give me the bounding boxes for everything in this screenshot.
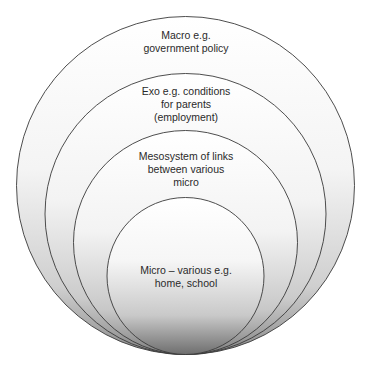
meso-label-line-1: Mesosystem of links [86, 150, 286, 163]
meso-label: Mesosystem of links between various micr… [86, 150, 286, 189]
meso-label-line-2: between various [86, 163, 286, 176]
macro-label: Macro e.g. government policy [86, 29, 286, 55]
exo-label: Exo e.g. conditions for parents (employm… [86, 85, 286, 124]
micro-label-line-2: home, school [86, 277, 286, 290]
micro-label: Micro – various e.g. home, school [86, 264, 286, 290]
exo-label-line-2: for parents [86, 98, 286, 111]
micro-label-line-1: Micro – various e.g. [86, 264, 286, 277]
exo-label-line-1: Exo e.g. conditions [86, 85, 286, 98]
macro-label-line-2: government policy [86, 42, 286, 55]
exo-label-line-3: (employment) [86, 111, 286, 124]
macro-label-line-1: Macro e.g. [86, 29, 286, 42]
meso-label-line-3: micro [86, 176, 286, 189]
